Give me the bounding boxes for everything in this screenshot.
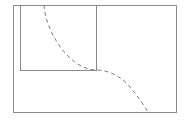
inner-rectangle (20, 5, 96, 70)
diagram-svg (0, 0, 185, 122)
outer-rectangle (13, 5, 176, 112)
diagram-canvas (0, 0, 185, 122)
